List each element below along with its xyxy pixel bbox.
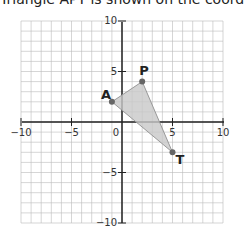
coordinate-plane: −10−5510105−5−100 APT [0, 0, 244, 240]
point-p-label: P [139, 63, 149, 78]
x-tick-label: −10 [10, 127, 31, 138]
x-tick-label: −5 [64, 127, 79, 138]
x-tick-label: 10 [217, 127, 230, 138]
x-tick-label: 5 [169, 127, 175, 138]
y-tick-label: −10 [96, 217, 117, 228]
point-t-label: T [176, 152, 185, 167]
point-p-marker [139, 79, 145, 85]
y-tick-label: 10 [104, 15, 117, 26]
origin-label: 0 [113, 127, 119, 138]
point-a-label: A [101, 87, 111, 102]
y-tick-label: −5 [102, 167, 117, 178]
y-tick-label: 5 [111, 66, 117, 77]
